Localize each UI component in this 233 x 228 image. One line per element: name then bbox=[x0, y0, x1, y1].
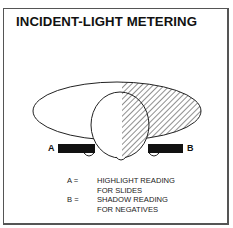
marker-b-label: B bbox=[187, 143, 194, 153]
meter-a bbox=[58, 144, 95, 156]
legend-key-a: A = bbox=[67, 176, 97, 186]
legend-text-b-line2: FOR NEGATIVES bbox=[67, 205, 175, 215]
legend: A = HIGHLIGHT READING FOR SLIDES B = SHA… bbox=[67, 176, 175, 214]
legend-text-b-line1: SHADOW READING bbox=[97, 195, 168, 205]
legend-item-b: B = SHADOW READING bbox=[67, 195, 175, 205]
legend-text-a-line1: HIGHLIGHT READING bbox=[97, 176, 175, 186]
marker-a-label: A bbox=[48, 143, 55, 153]
legend-text-a-line2: FOR SLIDES bbox=[67, 186, 175, 196]
legend-key-b: B = bbox=[67, 195, 97, 205]
incident-dome bbox=[91, 92, 149, 160]
legend-item-a: A = HIGHLIGHT READING bbox=[67, 176, 175, 186]
meter-b bbox=[148, 144, 183, 156]
